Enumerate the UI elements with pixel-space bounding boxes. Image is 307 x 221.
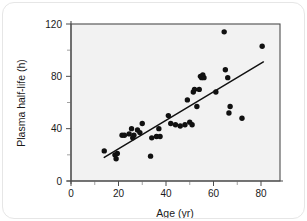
data-point: [148, 153, 153, 158]
data-point: [189, 122, 194, 127]
x-tick-label: 0: [68, 188, 74, 199]
figure-card: 020406080 04080120 Age (yr) Plasma half-…: [2, 2, 305, 219]
data-point: [185, 97, 190, 102]
data-point: [168, 121, 173, 126]
y-tick-label: 0: [56, 176, 62, 187]
plot-area-background: [71, 24, 280, 181]
data-point: [140, 121, 145, 126]
data-point: [239, 116, 244, 121]
data-point: [166, 113, 171, 118]
x-tick-label: 20: [113, 188, 125, 199]
x-tick-label: 80: [255, 188, 267, 199]
y-axis-tick-labels: 04080120: [45, 19, 62, 187]
data-point: [178, 123, 183, 128]
data-point: [102, 148, 107, 153]
plot-svg: 020406080 04080120 Age (yr) Plasma half-…: [3, 3, 305, 219]
data-point: [194, 104, 199, 109]
data-point: [223, 67, 228, 72]
data-point: [131, 133, 136, 138]
data-point: [115, 151, 120, 156]
x-axis-title: Age (yr): [156, 207, 193, 219]
x-axis-ticks: [71, 181, 261, 186]
y-tick-label: 40: [51, 123, 63, 134]
data-point: [137, 130, 142, 135]
data-point: [113, 156, 118, 161]
data-point: [192, 87, 197, 92]
data-point: [197, 87, 202, 92]
data-point: [221, 29, 226, 34]
x-tick-label: 60: [208, 188, 220, 199]
scatter-plot-figure: 020406080 04080120 Age (yr) Plasma half-…: [3, 3, 305, 219]
x-axis-tick-labels: 020406080: [68, 188, 267, 199]
data-point: [213, 89, 218, 94]
data-point: [157, 134, 162, 139]
y-tick-label: 80: [51, 71, 63, 82]
data-point: [226, 110, 231, 115]
data-point: [182, 122, 187, 127]
x-tick-label: 40: [160, 188, 172, 199]
data-point: [225, 75, 230, 80]
data-point: [227, 104, 232, 109]
data-point: [149, 135, 154, 140]
data-point: [156, 126, 161, 131]
data-point: [173, 122, 178, 127]
data-point: [201, 75, 206, 80]
y-axis-ticks: [66, 24, 71, 181]
y-tick-label: 120: [45, 19, 62, 30]
y-axis-title: Plasma half-life (h): [15, 59, 27, 147]
data-point: [122, 133, 127, 138]
data-point: [129, 126, 134, 131]
data-point: [259, 44, 264, 49]
